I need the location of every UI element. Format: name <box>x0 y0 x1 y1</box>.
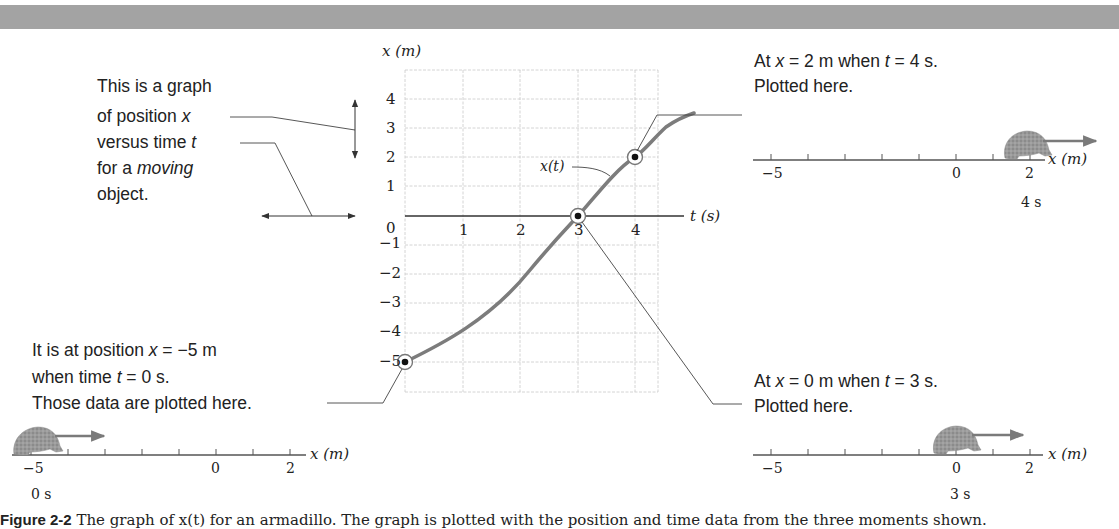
armadillo-icon <box>933 426 981 454</box>
var-t: t <box>191 132 196 152</box>
y-tick: −3 <box>379 293 401 311</box>
text: = 0 s. <box>122 367 170 387</box>
point-t4 <box>628 150 643 165</box>
caption-text: The graph of x(t) for an armadillo. The … <box>72 511 987 529</box>
t3-annotation-line-1: At x = 0 m when t = 3 s. <box>754 370 938 393</box>
intro-line-4-text: for a <box>97 158 137 178</box>
tick-label: 2 <box>286 460 295 476</box>
time-label: 3 s <box>950 486 971 502</box>
x-tick: 3 <box>574 221 584 239</box>
tick-label: 2 <box>1025 460 1034 476</box>
t3-annotation-line-2: Plotted here. <box>754 395 853 418</box>
text: At <box>754 51 775 71</box>
y-axis-label: x (m) <box>382 42 421 60</box>
intro-line-2-text: of position <box>97 106 182 126</box>
text: = 0 m when <box>784 371 885 391</box>
tick-label: 0 <box>952 165 961 181</box>
caption-label: Figure 2-2 <box>0 511 72 528</box>
intro-line-4: for a moving <box>97 157 193 180</box>
axis-label: x (m) <box>1048 150 1087 168</box>
figure-caption: Figure 2-2 The graph of x(t) for an arma… <box>0 511 987 529</box>
tick-label: −5 <box>762 460 783 476</box>
text: = 4 s. <box>890 51 938 71</box>
intro-line-5: object. <box>97 183 149 206</box>
text: At <box>754 371 775 391</box>
y-tick: 4 <box>386 90 396 108</box>
var-x: x <box>775 371 784 391</box>
t4-annotation-line-2: Plotted here. <box>754 75 853 98</box>
t4-annotation-line-1: At x = 2 m when t = 4 s. <box>754 50 938 73</box>
y-tick: −2 <box>379 264 401 282</box>
start-annotation-line-1: It is at position x = −5 m <box>32 339 217 362</box>
start-annotation-line-3: Those data are plotted here. <box>32 392 252 415</box>
tick-label: 2 <box>1025 165 1034 181</box>
y-tick: −1 <box>379 234 401 252</box>
var-x: x <box>775 51 784 71</box>
tick-label: −5 <box>23 460 44 476</box>
intro-line-1: This is a graph <box>97 75 212 98</box>
text: = 3 s. <box>890 371 938 391</box>
intro-line-3-text: versus time <box>97 132 191 152</box>
axis-label: x (m) <box>310 445 349 463</box>
armadillo-icon <box>14 427 63 455</box>
tick-label: −5 <box>762 165 783 181</box>
curve-label: x(t) <box>540 158 564 174</box>
start-annotation-line-2: when time t = 0 s. <box>32 366 170 389</box>
x-tick: 4 <box>631 221 641 239</box>
y-tick: −4 <box>379 322 401 340</box>
time-label: 4 s <box>1021 194 1042 210</box>
tick-label: 0 <box>211 460 220 476</box>
time-label: 0 s <box>31 486 52 502</box>
tick-label: 0 <box>952 460 961 476</box>
number-line-t3 <box>753 426 1043 455</box>
xt-curve <box>405 113 694 362</box>
y-tick: 3 <box>386 119 396 137</box>
axis-label: x (m) <box>1048 445 1087 463</box>
y-tick: 1 <box>386 177 396 195</box>
var-x: x <box>182 106 191 126</box>
armadillo-icon <box>1004 131 1052 159</box>
x-tick: 2 <box>516 221 526 239</box>
y-tick: 2 <box>386 148 396 166</box>
x-axis-label-text: t (s) <box>690 207 720 225</box>
text: when time <box>32 367 117 387</box>
text: It is at position <box>32 340 149 360</box>
intro-line-3: versus time t <box>97 131 196 154</box>
text: = 2 m when <box>784 51 885 71</box>
y-axis-label-text: x (m) <box>382 42 421 60</box>
intro-line-2: of position x <box>97 105 190 128</box>
number-line-t4 <box>753 131 1096 160</box>
x-axis-label: t (s) <box>690 207 720 225</box>
x-tick: 1 <box>459 221 469 239</box>
number-line-t0 <box>12 427 306 455</box>
y-tick: −5 <box>379 352 401 370</box>
text: = −5 m <box>157 340 216 360</box>
emphasis-moving: moving <box>137 158 193 178</box>
